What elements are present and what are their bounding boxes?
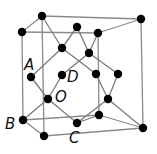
cube-edge: [22, 32, 23, 120]
atom-c: [73, 119, 81, 127]
label-c: C: [69, 131, 79, 146]
label-b: B: [5, 117, 15, 132]
cube-edge: [22, 32, 98, 33]
atom-f2: [94, 29, 102, 37]
bond-line: [31, 48, 62, 77]
bond-line: [108, 99, 143, 128]
atom-t1: [73, 23, 81, 31]
atom-f3: [95, 111, 103, 119]
bond-line: [77, 99, 108, 123]
atom-r1: [92, 70, 100, 78]
cube-edge: [98, 19, 141, 33]
cube-edge: [44, 128, 143, 136]
cube-edge: [42, 16, 141, 19]
bond-line: [77, 27, 89, 53]
atom-r2: [114, 70, 122, 78]
atom-o: [44, 95, 52, 103]
label-d: D: [67, 70, 79, 85]
atom-b: [19, 116, 27, 124]
atom-k3: [139, 124, 147, 132]
atom-m2: [85, 49, 93, 57]
atom-k1: [38, 12, 46, 20]
cube-edge: [141, 19, 143, 128]
atom-m1: [58, 44, 66, 52]
atom-r3: [104, 95, 112, 103]
label-a: A: [24, 58, 34, 73]
cube-edge: [99, 115, 143, 128]
atom-a: [27, 73, 35, 81]
atom-k4: [40, 132, 48, 140]
atom-d: [58, 71, 66, 79]
atom-f1: [18, 28, 26, 36]
label-o: O: [55, 90, 67, 105]
atom-k2: [137, 15, 145, 23]
